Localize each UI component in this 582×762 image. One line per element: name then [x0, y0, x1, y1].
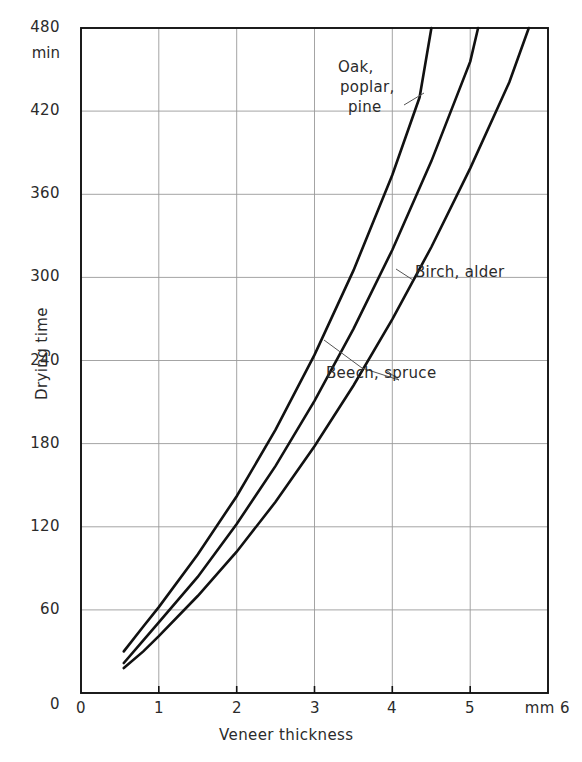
- y-tick-360: 360: [14, 186, 60, 201]
- y-tick-120: 120: [14, 519, 60, 534]
- x-tick-0: 0: [61, 701, 101, 716]
- annotation-oak-line-2: poplar,: [338, 78, 395, 98]
- y-tick-480: 480: [14, 20, 60, 35]
- y-tick-300: 300: [14, 269, 60, 284]
- y-tick-420: 420: [14, 103, 60, 118]
- chart-plot-area: [0, 0, 582, 762]
- y-unit-label: min: [14, 44, 60, 62]
- annotation-beech-spruce: Beech, spruce: [326, 364, 436, 383]
- curve-birch-alder: [124, 28, 478, 663]
- x-tick-6: mm 6: [510, 701, 570, 716]
- annotation-oak-poplar-pine: Oak, poplar, pine: [338, 58, 395, 117]
- annotation-oak-line-3: pine: [338, 98, 395, 118]
- x-axis-ticks: [159, 686, 470, 693]
- annotation-leader-lines: [324, 93, 424, 380]
- annotation-birch-alder: Birch, alder: [415, 263, 504, 282]
- x-tick-4: 4: [372, 701, 412, 716]
- x-axis-title: Veneer thickness: [219, 726, 353, 744]
- y-tick-0: 0: [14, 697, 60, 712]
- y-tick-180: 180: [14, 436, 60, 451]
- chart-figure: 480 min 420 360 300 240 180 120 60 0 Dry…: [0, 0, 582, 762]
- x-tick-2: 2: [217, 701, 257, 716]
- y-axis-title: Drying time: [33, 307, 51, 400]
- curve-oak-poplar-pine: [124, 28, 432, 651]
- annotation-oak-line-1: Oak,: [338, 58, 395, 78]
- x-tick-1: 1: [139, 701, 179, 716]
- y-tick-60: 60: [14, 602, 60, 617]
- leader-birch-alder: [396, 269, 413, 280]
- x-tick-3: 3: [295, 701, 335, 716]
- grid-lines: [81, 28, 548, 693]
- cutoff-caption-text: [0, 752, 582, 762]
- leader-oak-poplar-pine: [404, 93, 424, 105]
- x-tick-5: 5: [450, 701, 490, 716]
